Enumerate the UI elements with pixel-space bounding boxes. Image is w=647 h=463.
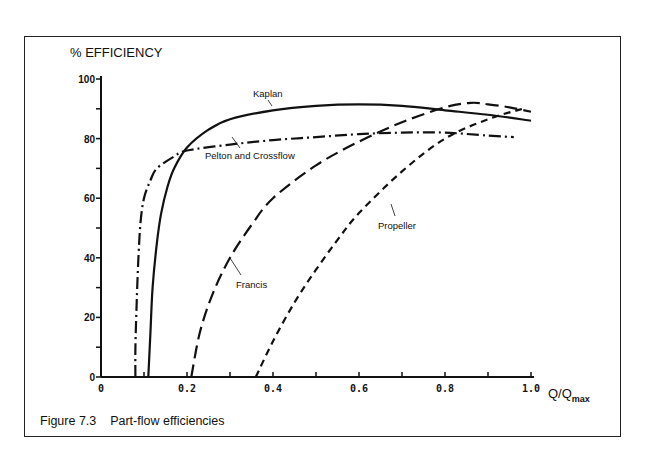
annotation-leader-line bbox=[391, 204, 395, 216]
annotation-leader-line bbox=[232, 137, 240, 148]
annotation-label: Kaplan bbox=[253, 88, 283, 99]
y-tick-label: 60 bbox=[84, 193, 96, 204]
figure-caption: Figure 7.3 Part-flow efficiencies bbox=[40, 414, 225, 428]
y-tick-label: 0 bbox=[89, 372, 95, 383]
x-axis-label-main: Q/Q bbox=[548, 386, 572, 401]
x-tick-label: 0.2 bbox=[178, 383, 196, 394]
x-tick-label: 0.6 bbox=[350, 383, 368, 394]
y-tick-label: 100 bbox=[78, 74, 95, 85]
x-tick-label: 0 bbox=[98, 383, 104, 394]
y-tick-label: 80 bbox=[84, 134, 96, 145]
series-kaplan bbox=[148, 104, 531, 377]
x-axis-label-sub: max bbox=[572, 394, 590, 404]
annotation-label: Pelton and Crossflow bbox=[205, 150, 295, 161]
y-tick-label: 20 bbox=[84, 312, 96, 323]
annotation-label: Francis bbox=[236, 279, 267, 290]
x-tick-label: 1.0 bbox=[522, 383, 540, 394]
series-propeller bbox=[256, 109, 523, 377]
x-axis-label: Q/Qmax bbox=[548, 386, 590, 404]
annotation-leader-line bbox=[230, 258, 241, 275]
x-tick-label: 0.8 bbox=[436, 383, 454, 394]
annotation-label: Propeller bbox=[378, 220, 416, 231]
series-pelton-and-crossflow bbox=[135, 132, 513, 377]
x-tick-label: 0.4 bbox=[264, 383, 282, 394]
annotation-leader-line bbox=[268, 100, 272, 106]
y-tick-label: 40 bbox=[84, 253, 96, 264]
